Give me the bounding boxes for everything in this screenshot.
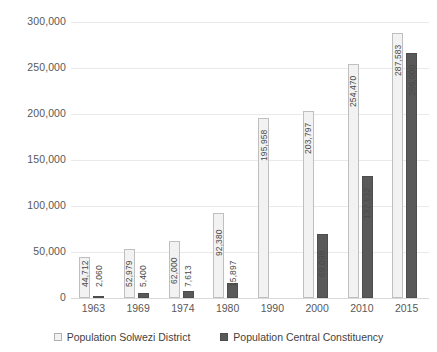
bar-group: 203,79769,098 [295, 22, 340, 298]
gridline [71, 298, 429, 299]
x-axis-tick-label: 1974 [161, 302, 205, 315]
y-axis-tick-label: 250,000 [0, 62, 66, 73]
x-axis-tick-label: 1980 [206, 302, 250, 315]
bar-group: 62,0007,613 [161, 22, 206, 298]
bar-value-label: 69,098 [318, 251, 327, 278]
legend-item[interactable]: Population Solwezi District [54, 331, 191, 343]
y-axis-tick-label: 150,000 [0, 154, 66, 165]
x-axis: 19631969197419801990200020102015 [71, 302, 429, 318]
bar-value-label: 5,400 [139, 265, 148, 287]
bar-value-label: 44,712 [80, 260, 89, 287]
y-axis-tick-label: 200,000 [0, 108, 66, 119]
bar-value-label: 7,613 [184, 265, 193, 287]
dark-square-icon [220, 333, 228, 341]
bar-group: 287,583266,000 [384, 22, 429, 298]
bar-value-label: 266,000 [407, 65, 416, 96]
bar-group: 92,38015,897 [205, 22, 250, 298]
bars-layer: 44,7122,06052,9795,40062,0007,61392,3801… [71, 22, 429, 298]
x-axis-tick-label: 2015 [385, 302, 429, 315]
legend-label: Population Central Constituency [233, 331, 383, 343]
x-axis-tick-label: 1963 [71, 302, 115, 315]
chart-legend: Population Solwezi DistrictPopulation Ce… [0, 331, 437, 343]
legend-label: Population Solwezi District [67, 331, 191, 343]
bar-value-label: 52,979 [125, 260, 134, 287]
x-axis-tick-label: 2000 [295, 302, 339, 315]
bar-value-label: 287,583 [393, 45, 402, 76]
bar-group: 254,470132,532 [340, 22, 385, 298]
bar-value-label: 2,060 [94, 265, 103, 287]
x-axis-tick-label: 2010 [340, 302, 384, 315]
bar-value-label: 62,000 [170, 257, 179, 284]
bar-central-constituency[interactable] [93, 296, 104, 298]
bar-value-label: 15,897 [228, 260, 237, 287]
y-axis-tick-label: 50,000 [0, 246, 66, 257]
bar-value-label: 203,797 [304, 122, 313, 153]
bar-value-label: 92,380 [214, 229, 223, 256]
bar-group: 195,958 [250, 22, 295, 298]
x-axis-tick-label: 1969 [116, 302, 160, 315]
legend-item[interactable]: Population Central Constituency [220, 331, 383, 343]
y-axis-tick-label: 100,000 [0, 200, 66, 211]
y-axis-tick-label: 0 [0, 292, 66, 303]
y-axis-tick-label: 300,000 [0, 16, 66, 27]
bar-value-label: 195,958 [259, 129, 268, 160]
y-axis: 050,000100,000150,000200,000250,000300,0… [0, 0, 66, 352]
population-bar-chart: 050,000100,000150,000200,000250,000300,0… [0, 0, 437, 352]
bar-group: 52,9795,400 [116, 22, 161, 298]
bar-central-constituency[interactable] [183, 291, 194, 298]
x-axis-tick-label: 1990 [250, 302, 294, 315]
bar-central-constituency[interactable] [138, 293, 149, 298]
bar-value-label: 132,532 [363, 188, 372, 219]
light-square-icon [54, 333, 62, 341]
bar-value-label: 254,470 [349, 75, 358, 106]
bar-group: 44,7122,060 [71, 22, 116, 298]
